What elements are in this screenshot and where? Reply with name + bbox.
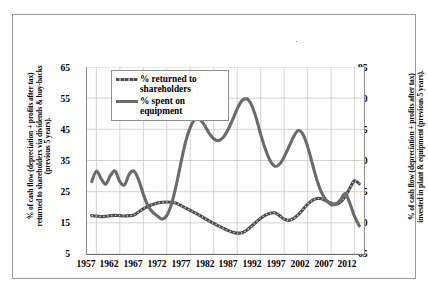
figure-canvas: % of cash flow (depreciation + profits a… — [0, 0, 428, 295]
stray-speck — [296, 41, 297, 42]
legend-line-swatch-solid-icon — [116, 100, 138, 103]
legend-line-swatch-dashed-icon — [116, 78, 138, 81]
chart-legend[interactable]: % returned toshareholders % spent onequi… — [111, 70, 229, 121]
y-tick-left-35: 35 — [44, 155, 70, 166]
chart-frame: % of cash flow (depreciation + profits a… — [12, 14, 416, 279]
y-tick-left-25: 25 — [44, 186, 70, 197]
y-tick-left-55: 55 — [44, 93, 70, 104]
y-tick-left-15: 15 — [44, 217, 70, 228]
y-tick-left-45: 45 — [44, 124, 70, 135]
legend-label-line2: equipment — [140, 106, 182, 116]
legend-label-line2: shareholders — [140, 84, 191, 94]
y-tick-left-5: 5 — [44, 248, 70, 259]
legend-label-line1: % spent on — [140, 96, 185, 106]
legend-label-line1: % returned to — [140, 74, 197, 84]
y-axis-right-title: % of cash flow (depreciation + profits a… — [408, 32, 425, 262]
legend-item-spent-on-equipment[interactable]: % spent onequipment — [116, 96, 224, 116]
y-tick-left-65: 65 — [44, 62, 70, 73]
legend-label-returned-to-shareholders: % returned toshareholders — [140, 74, 197, 94]
legend-item-returned-to-shareholders[interactable]: % returned toshareholders — [116, 74, 224, 94]
x-tick-2012: 2012 — [330, 258, 364, 269]
legend-label-spent-on-equipment: % spent onequipment — [140, 96, 185, 116]
